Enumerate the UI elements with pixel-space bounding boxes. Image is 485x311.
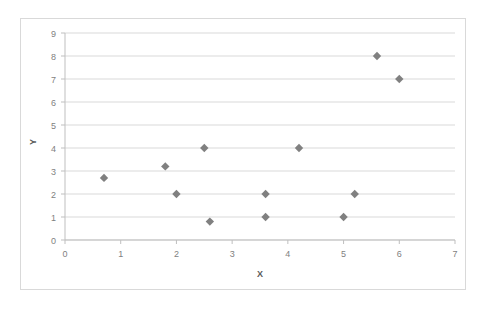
data-point-marker	[172, 190, 180, 198]
x-tick-label: 7	[452, 249, 457, 259]
scatter-plot: 0123456789 01234567 X Y	[0, 0, 485, 311]
y-tick-label: 7	[51, 75, 56, 85]
data-point-marker	[339, 213, 347, 221]
data-markers-group	[100, 52, 404, 226]
data-point-marker	[206, 217, 214, 225]
y-tick-label: 9	[51, 29, 56, 39]
x-tick-label: 4	[285, 249, 290, 259]
data-point-marker	[261, 190, 269, 198]
gridlines-group	[65, 33, 455, 240]
x-axis-title: X	[257, 269, 263, 279]
data-point-marker	[161, 162, 169, 170]
data-point-marker	[200, 144, 208, 152]
data-point-marker	[295, 144, 303, 152]
y-tick-label: 8	[51, 52, 56, 62]
data-point-marker	[373, 52, 381, 60]
x-tick-label: 2	[174, 249, 179, 259]
x-tick-label: 0	[62, 249, 67, 259]
x-tick-label: 3	[230, 249, 235, 259]
y-axis-title: Y	[28, 139, 38, 145]
y-tick-label: 5	[51, 121, 56, 131]
y-tick-label: 2	[51, 190, 56, 200]
data-point-marker	[261, 213, 269, 221]
y-tick-labels-group: 0123456789	[51, 29, 56, 246]
data-point-marker	[395, 75, 403, 83]
x-tick-label: 6	[397, 249, 402, 259]
axis-lines-group	[61, 33, 455, 244]
data-point-marker	[351, 190, 359, 198]
y-tick-label: 4	[51, 144, 56, 154]
y-tick-label: 1	[51, 213, 56, 223]
x-tick-label: 5	[341, 249, 346, 259]
x-tick-labels-group: 01234567	[62, 249, 457, 259]
y-tick-label: 6	[51, 98, 56, 108]
y-tick-label: 0	[51, 236, 56, 246]
y-tick-label: 3	[51, 167, 56, 177]
data-point-marker	[100, 174, 108, 182]
x-tick-label: 1	[118, 249, 123, 259]
